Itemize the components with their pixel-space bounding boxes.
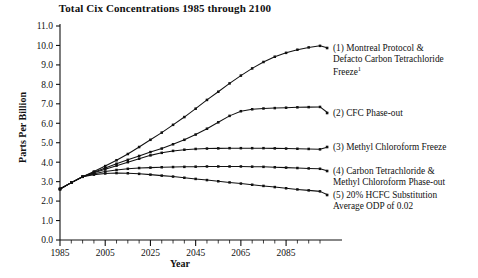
data-point-marker <box>183 116 186 119</box>
leader-line-3 <box>320 146 328 150</box>
data-point-marker <box>285 106 288 109</box>
data-point-marker <box>240 74 243 77</box>
y-tick-label: 8.0 <box>41 80 53 90</box>
data-point-marker <box>262 107 265 110</box>
leader-lines <box>320 46 328 196</box>
legend-4: (4) Carbon Tetrachloride &Methyl Chlorof… <box>333 166 445 187</box>
data-point-marker <box>104 172 107 175</box>
y-tick-label: 6.0 <box>41 119 53 129</box>
x-tick-label: 1985 <box>51 248 70 258</box>
data-point-marker <box>307 189 310 192</box>
data-point-marker <box>285 187 288 190</box>
data-point-marker <box>160 152 163 155</box>
x-tick-label: 2005 <box>96 248 115 258</box>
data-point-marker <box>217 165 220 168</box>
series-line-5 <box>59 172 322 193</box>
data-point-marker <box>194 178 197 181</box>
data-point-marker <box>274 147 277 150</box>
legend-text-line: (2) CFC Phase-out <box>333 108 403 119</box>
chart-figure: Total Cix Concentrations 1985 through 21… <box>0 0 478 278</box>
data-point-marker <box>240 110 243 113</box>
data-point-marker <box>115 169 118 172</box>
data-point-marker <box>262 147 265 150</box>
data-point-marker <box>70 181 73 184</box>
data-point-marker <box>183 139 186 142</box>
y-tick-label: 4.0 <box>41 158 53 168</box>
data-point-marker <box>228 165 231 168</box>
y-tick-label: 3.0 <box>41 177 53 187</box>
data-point-marker <box>251 184 254 187</box>
legend-marker <box>326 112 329 115</box>
series-line-3 <box>59 147 322 190</box>
data-point-marker <box>138 155 141 158</box>
legend-text-line: Freeze1 <box>333 64 444 78</box>
data-point-marker <box>183 166 186 169</box>
data-point-marker <box>115 172 118 175</box>
leader-line-4 <box>320 169 328 173</box>
data-point-marker <box>206 179 209 182</box>
data-point-marker <box>127 153 130 156</box>
data-point-marker <box>172 124 175 127</box>
data-point-marker <box>172 143 175 146</box>
data-point-marker <box>115 164 118 167</box>
data-point-marker <box>172 166 175 169</box>
data-point-marker <box>307 46 310 49</box>
legend-text-line: Defacto Carbon Tetrachloride <box>333 54 444 65</box>
legend-marker <box>326 194 329 197</box>
y-tick-label: 0.0 <box>41 235 53 245</box>
legend-footnote-marker: 1 <box>358 65 361 72</box>
data-point-marker <box>206 147 209 150</box>
data-point-marker <box>160 174 163 177</box>
legend-text-line: (4) Carbon Tetrachloride & <box>333 166 445 177</box>
data-point-marker <box>149 151 152 154</box>
data-point-marker <box>240 182 243 185</box>
x-tick-label: 2045 <box>186 248 205 258</box>
data-point-marker <box>194 133 197 136</box>
legend-text-line: (3) Methyl Chloroform Freeze <box>333 142 446 153</box>
data-point-marker <box>285 147 288 150</box>
leader-line-1 <box>320 46 328 49</box>
data-point-marker <box>296 48 299 51</box>
data-point-marker <box>206 127 209 130</box>
data-point-marker <box>251 147 254 150</box>
y-tick-label: 7.0 <box>41 99 53 109</box>
data-point-marker <box>296 167 299 170</box>
data-point-marker <box>160 131 163 134</box>
y-tick-label: 11.0 <box>37 21 54 31</box>
y-tick-label: 10.0 <box>36 41 53 51</box>
data-point-marker <box>274 166 277 169</box>
data-point-marker <box>149 173 152 176</box>
legend-2: (2) CFC Phase-out <box>333 108 403 119</box>
x-tick-label: 2025 <box>141 248 160 258</box>
data-point-marker <box>104 168 107 171</box>
data-point-marker <box>183 177 186 180</box>
data-point-marker <box>251 165 254 168</box>
data-point-marker <box>307 106 310 109</box>
data-point-marker <box>127 161 130 164</box>
data-point-marker <box>206 165 209 168</box>
y-tick-label: 2.0 <box>41 196 53 206</box>
legend-5: (5) 20% HCFC SubstitutionAverage ODP of … <box>333 190 437 211</box>
legend-text-line: (5) 20% HCFC Substitution <box>333 190 437 201</box>
data-point-marker <box>274 107 277 110</box>
data-point-marker <box>206 99 209 102</box>
data-point-marker <box>217 180 220 183</box>
data-point-marker <box>296 148 299 151</box>
legend-3: (3) Methyl Chloroform Freeze <box>333 142 446 153</box>
data-point-marker <box>307 148 310 151</box>
y-tick-label: 5.0 <box>41 138 53 148</box>
legend-marker <box>326 170 329 173</box>
data-point-marker <box>274 55 277 58</box>
data-point-marker <box>138 157 141 160</box>
data-point-marker <box>93 173 96 176</box>
data-point-marker <box>262 185 265 188</box>
data-point-marker <box>81 176 84 179</box>
data-point-marker <box>217 147 220 150</box>
data-point-marker <box>228 82 231 85</box>
data-point-marker <box>262 61 265 64</box>
data-point-marker <box>307 167 310 170</box>
data-point-marker <box>149 154 152 157</box>
legend-text-line: Methyl Chloroform Phase-out <box>333 177 445 188</box>
data-point-marker <box>228 147 231 150</box>
leader-line-5 <box>320 191 328 196</box>
